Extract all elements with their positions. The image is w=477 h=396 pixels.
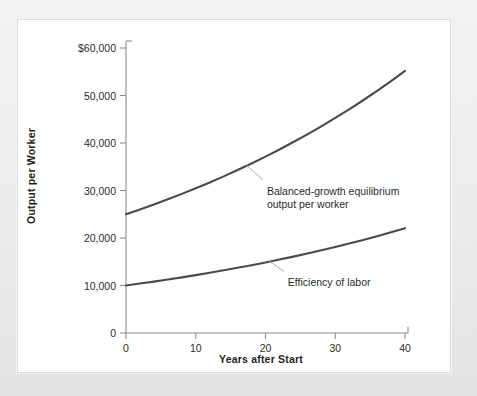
y-tick-label-0: 0 bbox=[110, 327, 116, 339]
figure-panel: 010,00020,00030,00040,00050,000$60,000 0… bbox=[17, 19, 451, 373]
leader-lines-group bbox=[246, 165, 284, 272]
balanced-growth-annotation: Balanced-growth equilibrium output per w… bbox=[267, 185, 400, 212]
figure-root: 010,00020,00030,00040,00050,000$60,000 0… bbox=[0, 0, 477, 396]
y-tick-label-6: $60,000 bbox=[78, 42, 116, 54]
y-tick-label-2: 20,000 bbox=[84, 232, 116, 244]
efficiency-of-labor-annotation: Efficiency of labor bbox=[288, 276, 371, 290]
y-tick-label-4: 40,000 bbox=[84, 137, 116, 149]
y-tick-label-5: 50,000 bbox=[84, 90, 116, 102]
y-tick-label-3: 30,000 bbox=[84, 185, 116, 197]
x-axis-title: Years after Start bbox=[116, 353, 406, 365]
y-axis-title: Output per Worker bbox=[25, 116, 37, 236]
leader-line-1 bbox=[268, 260, 284, 271]
series-group bbox=[126, 71, 405, 286]
y-tick-label-1: 10,000 bbox=[84, 280, 116, 292]
leader-line-0 bbox=[246, 165, 263, 180]
chart-surface: 010,00020,00030,00040,00050,000$60,000 0… bbox=[18, 20, 450, 372]
